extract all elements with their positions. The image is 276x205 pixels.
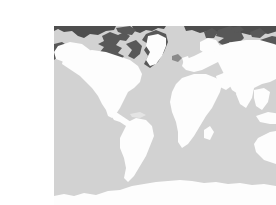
page-root: World Map: [0, 0, 276, 205]
world-map-figure[interactable]: World Map: [54, 26, 276, 205]
world-map-svg[interactable]: [54, 26, 276, 205]
